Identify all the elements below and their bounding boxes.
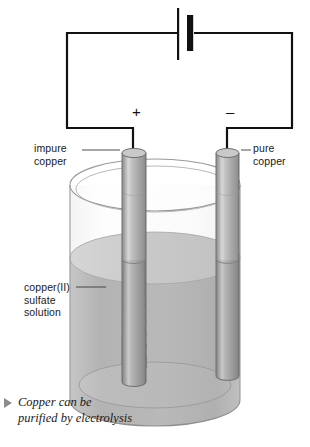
label-copper-sulfate-solution: copper(II) sulfate solution <box>24 281 70 319</box>
cathode-top-cap <box>216 149 239 158</box>
figure-caption-text: Copper can be purified by electrolysis <box>18 395 134 426</box>
positive-terminal-sign: + <box>132 104 141 119</box>
cathode-electrode-pure-copper <box>216 149 239 381</box>
battery-icon <box>177 8 193 60</box>
solution-surface <box>70 232 240 284</box>
label-pure-copper: pure copper <box>253 142 286 167</box>
anode-electrode-impure-copper <box>122 148 147 386</box>
beaker <box>70 159 240 428</box>
label-impure-copper: impure copper <box>34 142 67 167</box>
electrolysis-diagram-figure: impure copper pure copper copper(II) sul… <box>0 0 310 447</box>
diagram-canvas <box>0 0 310 447</box>
beaker-rim-outer <box>70 159 240 211</box>
anode-top-cap <box>122 148 146 157</box>
negative-terminal-sign: – <box>226 104 234 119</box>
figure-caption: Copper can be purified by electrolysis <box>4 395 134 426</box>
